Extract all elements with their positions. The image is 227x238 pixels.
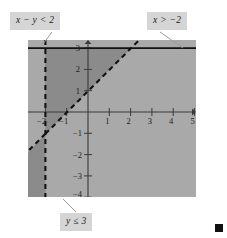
x-tick-label-4: 4 [169, 116, 174, 126]
x-tick-label--1: −1 [59, 116, 68, 126]
y-tick-label--1: −1 [73, 128, 82, 138]
x-tick-label-1: 1 [105, 116, 109, 126]
y-tick-label-2: 2 [76, 64, 80, 74]
callout-x-greater-than: x > −2 [147, 12, 187, 30]
callout-y-less-than-equal: y ≤ 3 [60, 213, 92, 231]
y-tick-label--3: −3 [73, 171, 82, 181]
plot-svg: −2 −1 1 2 3 4 5 3 2 1 −1 −2 −3 −4 [28, 40, 196, 197]
x-tick-label-2: 2 [126, 116, 130, 126]
leader-line-y-lte [63, 199, 76, 212]
y-tick-label-1: 1 [76, 86, 80, 96]
x-tick-label-5: 5 [190, 116, 194, 126]
x-tick-label--2: −2 [37, 116, 46, 126]
callout-x-minus-y: x − y < 2 [10, 12, 60, 30]
y-tick-label--4: −4 [73, 189, 83, 198]
corner-square-mark [215, 224, 223, 232]
y-tick-label-3: 3 [76, 43, 80, 53]
y-tick-label--2: −2 [73, 150, 82, 160]
x-tick-label-3: 3 [148, 116, 152, 126]
inequality-graph-figure: −2 −1 1 2 3 4 5 3 2 1 −1 −2 −3 −4 x − y … [0, 0, 227, 238]
plot-area: −2 −1 1 2 3 4 5 3 2 1 −1 −2 −3 −4 [28, 40, 196, 197]
